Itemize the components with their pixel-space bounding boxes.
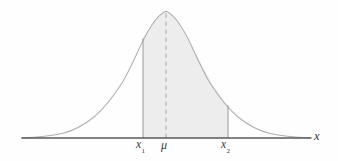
mu-axis-label: μ — [161, 139, 167, 151]
x2-axis-label: x2 — [221, 139, 230, 153]
x1-label-subscript: 1 — [141, 147, 145, 155]
distribution-plot-canvas — [0, 0, 338, 161]
normal-distribution-figure: x1 μ x2 x — [0, 0, 338, 161]
shaded-area-region — [143, 11, 228, 138]
x1-axis-label: x1 — [136, 139, 145, 153]
x-axis-name-label: x — [314, 130, 320, 143]
x2-label-subscript: 2 — [226, 147, 230, 155]
